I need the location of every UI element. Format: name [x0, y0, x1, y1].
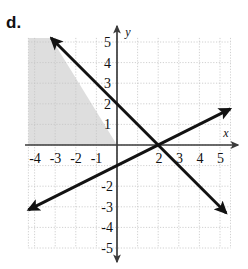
x-tick-label: -3: [50, 151, 62, 166]
y-tick-label: 5: [104, 35, 111, 50]
x-tick-label: 2: [156, 151, 163, 166]
y-tick-label: 2: [104, 97, 111, 112]
y-tick-label: -4: [101, 220, 113, 235]
x-tick-label: -2: [70, 151, 82, 166]
coordinate-plane: x y -4 -3 -2 -1 2 3 4 5 5 4 3 2 1 -2 -3 …: [0, 0, 248, 269]
y-tick-label: -3: [101, 200, 113, 215]
y-axis-label: y: [124, 25, 131, 39]
x-axis-label: x: [222, 126, 229, 140]
part-label: d.: [6, 14, 21, 31]
x-tick-label: 5: [217, 151, 224, 166]
x-tick-label: -4: [29, 151, 41, 166]
y-tick-label: 4: [104, 56, 111, 71]
x-tick-label: 4: [197, 151, 204, 166]
y-tick-label: 1: [104, 117, 111, 132]
y-tick-label: -2: [101, 179, 113, 194]
x-tick-label: 3: [176, 151, 183, 166]
x-tick-label: -1: [91, 151, 103, 166]
y-tick-label: -5: [101, 241, 113, 256]
y-tick-label: 3: [104, 76, 111, 91]
graph-figure: d.: [0, 0, 248, 269]
